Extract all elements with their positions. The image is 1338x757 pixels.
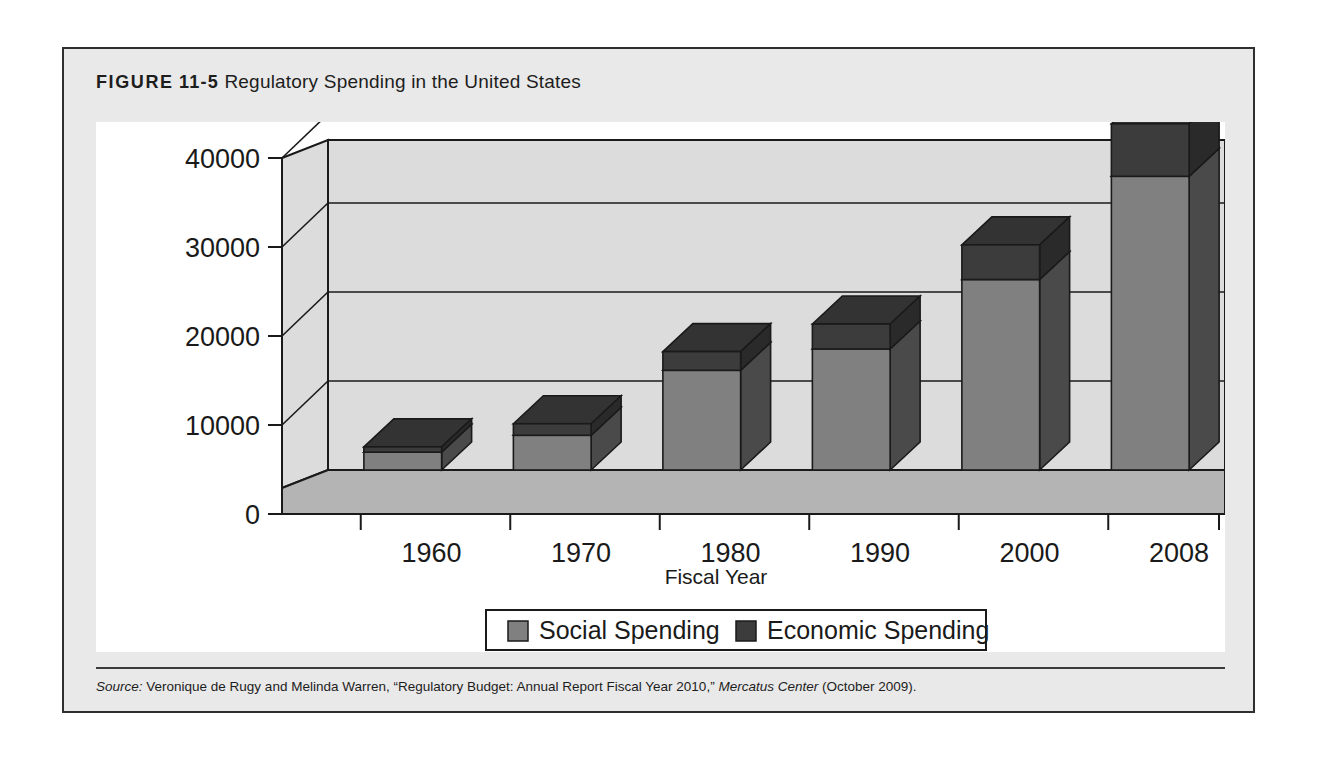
source-label: Source:	[96, 679, 143, 694]
bar-social-1970-face	[513, 435, 591, 470]
bar-social-1960-face	[364, 452, 442, 470]
legend-swatch-economic-spending	[736, 621, 756, 641]
legend-label-social-spending: Social Spending	[539, 616, 720, 644]
source-publication: Mercatus Center	[718, 679, 818, 694]
bar-economic-2008-face	[1111, 124, 1189, 177]
figure-label-number: 11-5	[179, 72, 219, 92]
x-tick-label-1960: 1960	[401, 538, 461, 568]
x-tick-label-1990: 1990	[850, 538, 910, 568]
x-axis-title: Fiscal Year	[665, 565, 768, 588]
page-title: Regulatory Spending in the United States	[224, 71, 581, 92]
bar-economic-1960-face	[364, 447, 442, 452]
y-tick-label: 20000	[185, 322, 260, 352]
y-tick-label: 10000	[185, 411, 260, 441]
y-tick-label: 40000	[185, 144, 260, 174]
bar-group-2000	[962, 217, 1070, 470]
bar-social-2000-side	[1040, 252, 1070, 470]
chart-floor	[282, 470, 1225, 514]
bar-social-2008	[1111, 148, 1219, 470]
bar-social-2008-side	[1189, 148, 1219, 470]
x-tick-label-1970: 1970	[551, 538, 611, 568]
source-note: Source: Veronique de Rugy and Melinda Wa…	[96, 679, 1236, 694]
figure-frame: FIGURE 11-5 Regulatory Spending in the U…	[62, 47, 1255, 713]
figure-label-word: FIGURE	[96, 72, 174, 92]
legend-swatch-social-spending	[508, 621, 528, 641]
figure-title: FIGURE 11-5 Regulatory Spending in the U…	[96, 71, 581, 93]
bar-social-1990-face	[812, 349, 890, 470]
bar-economic-1970-face	[513, 424, 591, 436]
bar-social-2008-face	[1111, 176, 1189, 470]
bar-social-2000-face	[962, 280, 1040, 470]
chart-plot-panel: 010000200003000040000 196019701980199020…	[96, 122, 1225, 652]
bar-social-1980-face	[663, 370, 741, 470]
x-tick-labels: 196019701980199020002008	[361, 514, 1219, 568]
y-tick-label: 0	[245, 500, 260, 530]
x-tick-label-2008: 2008	[1149, 538, 1209, 568]
bar-group-2008	[1111, 122, 1219, 470]
bar-group-1990	[812, 296, 920, 470]
x-tick-label-2000: 2000	[999, 538, 1059, 568]
bar-economic-1980-face	[663, 352, 741, 371]
source-divider	[96, 667, 1225, 669]
regulatory-spending-chart: 010000200003000040000 196019701980199020…	[96, 122, 1225, 652]
x-tick-label-1980: 1980	[700, 538, 760, 568]
y-tick-label: 30000	[185, 233, 260, 263]
bar-group-1980	[663, 324, 771, 470]
legend-label-economic-spending: Economic Spending	[767, 616, 989, 644]
chart-legend: Social Spending Economic Spending	[486, 610, 989, 650]
source-date: (October 2009).	[818, 679, 916, 694]
bar-social-2000	[962, 252, 1070, 470]
bar-economic-2000-face	[962, 245, 1040, 280]
y-tick-labels: 010000200003000040000	[185, 144, 282, 530]
source-text: Veronique de Rugy and Melinda Warren, “R…	[143, 679, 719, 694]
bar-economic-1990-face	[812, 324, 890, 349]
